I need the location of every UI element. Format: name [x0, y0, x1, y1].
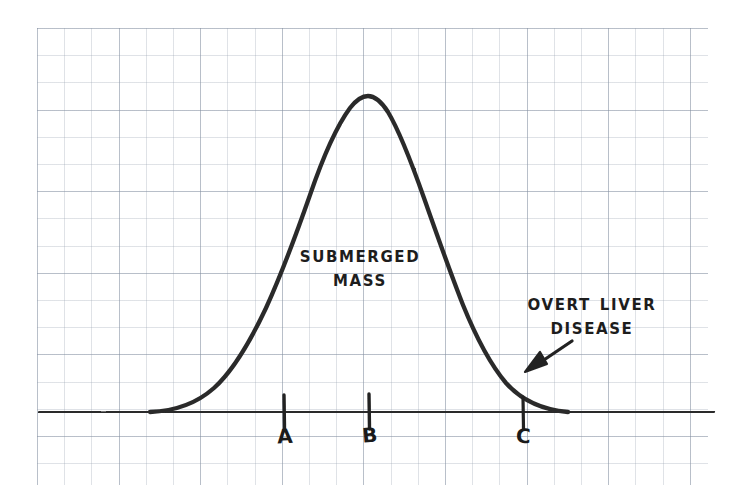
axis-tick-label-b: B — [361, 422, 379, 447]
figure-canvas: Submerged Mass Overt Liver Disease A B C — [0, 0, 749, 503]
annotation-submerged-mass: Submerged Mass — [296, 243, 424, 292]
annotation-arrow — [525, 341, 572, 372]
annotation-overt-liver-disease-line1: Overt Liver — [521, 291, 663, 315]
axis-tick-label-c: C — [516, 424, 532, 449]
x-axis-baseline — [40, 412, 713, 413]
axis-tick-label-a: A — [276, 424, 293, 449]
annotation-overt-liver-disease-line2: Disease — [521, 315, 663, 339]
annotation-submerged-mass-line2: Mass — [296, 267, 424, 291]
annotation-overt-liver-disease: Overt Liver Disease — [521, 291, 663, 340]
annotation-submerged-mass-line1: Submerged — [296, 243, 424, 267]
